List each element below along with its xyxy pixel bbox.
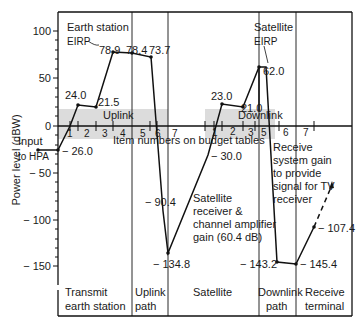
svg-text:Receive: Receive — [273, 141, 313, 153]
svg-text:EIRP: EIRP — [254, 36, 278, 47]
svg-text:78.9: 78.9 — [99, 44, 120, 56]
svg-text:73.7: 73.7 — [149, 44, 170, 56]
svg-text:0: 0 — [45, 120, 51, 132]
svg-text:78.4: 78.4 — [126, 44, 147, 56]
svg-text:− 30.0: − 30.0 — [211, 150, 242, 162]
svg-text:Satellite: Satellite — [193, 286, 232, 298]
svg-text:path: path — [135, 300, 156, 312]
svg-text:21.0: 21.0 — [241, 102, 262, 114]
svg-text:receiver: receiver — [273, 193, 312, 205]
svg-text:channel amplifier: channel amplifier — [193, 218, 276, 230]
svg-text:system gain: system gain — [273, 154, 332, 166]
svg-text:path: path — [266, 300, 287, 312]
svg-text:Uplink: Uplink — [135, 286, 166, 298]
svg-text:Satellite: Satellite — [193, 192, 232, 204]
svg-text:Downlink: Downlink — [258, 286, 303, 298]
svg-text:− 50: − 50 — [29, 167, 51, 179]
svg-text:3: 3 — [102, 128, 108, 139]
power-level-diagram: 100 50 0 − 50 − 100 − 150 Power level (d… — [0, 0, 363, 327]
svg-text:− 26.0: − 26.0 — [62, 145, 93, 157]
svg-text:Input: Input — [18, 135, 42, 147]
svg-text:− 100: − 100 — [23, 214, 51, 226]
items-caption: Item numbers on budget tables — [113, 134, 265, 146]
svg-text:Receive: Receive — [305, 286, 345, 298]
svg-text:EIRP: EIRP — [67, 36, 91, 47]
svg-text:− 150: − 150 — [23, 260, 51, 272]
svg-text:50: 50 — [39, 72, 51, 84]
svg-text:− 90.4: − 90.4 — [145, 196, 176, 208]
section-labels: Transmit earth station Uplink path Satel… — [65, 286, 345, 312]
svg-text:2: 2 — [84, 128, 90, 139]
svg-text:to provide: to provide — [273, 167, 321, 179]
svg-text:21.5: 21.5 — [98, 96, 119, 108]
svg-text:receiver &: receiver & — [193, 205, 243, 217]
svg-text:100: 100 — [33, 25, 51, 37]
svg-text:terminal: terminal — [305, 300, 344, 312]
svg-text:signal for TV: signal for TV — [273, 180, 335, 192]
svg-text:23.0: 23.0 — [211, 90, 232, 102]
svg-text:earth station: earth station — [65, 300, 126, 312]
svg-text:6: 6 — [283, 127, 289, 138]
svg-text:Satellite: Satellite — [254, 21, 293, 33]
svg-text:7: 7 — [303, 127, 309, 138]
svg-text:gain (60.4 dB): gain (60.4 dB) — [193, 231, 262, 243]
svg-text:to HPA: to HPA — [18, 151, 49, 162]
svg-text:Transmit: Transmit — [65, 286, 107, 298]
svg-text:Earth station: Earth station — [67, 21, 129, 33]
uplink-label: Uplink — [103, 109, 134, 121]
svg-text:− 143.2: − 143.2 — [240, 258, 277, 270]
svg-text:− 145.4: − 145.4 — [300, 258, 337, 270]
svg-text:62.0: 62.0 — [263, 65, 284, 77]
svg-text:− 134.8: − 134.8 — [153, 258, 190, 270]
svg-text:− 107.4: − 107.4 — [318, 222, 355, 234]
svg-text:24.0: 24.0 — [65, 89, 86, 101]
